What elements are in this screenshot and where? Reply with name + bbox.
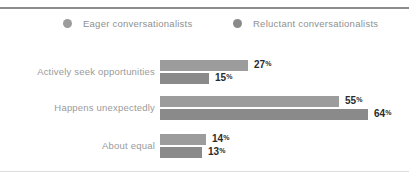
bar-value-label: 13% bbox=[208, 146, 225, 158]
bar-fill bbox=[160, 60, 248, 71]
percent-sign: % bbox=[385, 109, 391, 116]
category-label: Actively seek opportunities bbox=[5, 66, 155, 77]
bar-eager: 14% bbox=[160, 134, 206, 145]
bar-value-label: 15% bbox=[215, 72, 232, 84]
bar-group: About equal14%13% bbox=[0, 134, 409, 158]
bar-eager: 27% bbox=[160, 60, 248, 71]
category-label: Happens unexpectedly bbox=[5, 102, 155, 113]
bar-value-label: 55% bbox=[345, 95, 362, 107]
bar-value-label: 27% bbox=[254, 59, 271, 71]
bar-eager: 55% bbox=[160, 96, 339, 107]
percent-sign: % bbox=[265, 60, 271, 67]
percent-sign: % bbox=[223, 134, 229, 141]
bar-reluctant: 15% bbox=[160, 73, 209, 84]
category-label: About equal bbox=[5, 140, 155, 151]
bar-fill bbox=[160, 96, 339, 107]
bar-group: Actively seek opportunities27%15% bbox=[0, 60, 409, 84]
bar-reluctant: 13% bbox=[160, 147, 202, 158]
bar-fill bbox=[160, 109, 368, 120]
footer-divider-rule bbox=[0, 171, 409, 172]
percent-sign: % bbox=[226, 73, 232, 80]
bar-value-label: 64% bbox=[374, 108, 391, 120]
bar-fill bbox=[160, 147, 202, 158]
grouped-bar-chart: Eager conversationalists Reluctant conve… bbox=[0, 0, 409, 177]
plot-area: Actively seek opportunities27%15%Happens… bbox=[0, 0, 409, 177]
percent-sign: % bbox=[219, 147, 225, 154]
bar-fill bbox=[160, 73, 209, 84]
bar-fill bbox=[160, 134, 206, 145]
bar-group: Happens unexpectedly55%64% bbox=[0, 96, 409, 120]
bar-reluctant: 64% bbox=[160, 109, 368, 120]
percent-sign: % bbox=[356, 96, 362, 103]
bar-value-label: 14% bbox=[212, 133, 229, 145]
